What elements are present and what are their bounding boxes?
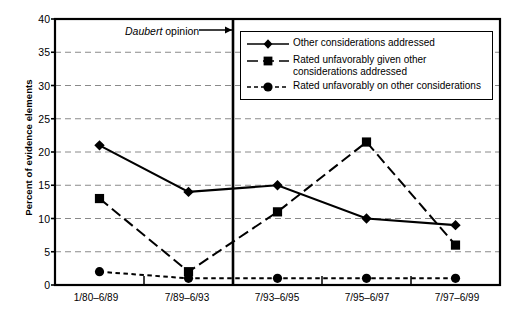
legend-key-circle-icon (245, 80, 291, 94)
daubert-arrow (199, 27, 232, 34)
data-point (362, 137, 371, 146)
legend-label-2-line1: Rated unfavorably given other (293, 54, 426, 66)
data-point (184, 274, 193, 283)
data-point (95, 194, 104, 203)
data-point (272, 180, 282, 190)
legend-item-rated-unfavorably-given: Rated unfavorably given other considerat… (245, 54, 488, 77)
data-point (273, 274, 282, 283)
data-point (362, 274, 371, 283)
data-series-group (94, 137, 460, 283)
legend-key-square-icon (245, 54, 291, 68)
legend-label-3: Rated unfavorably on other consideration… (291, 80, 481, 92)
legend-item-rated-unfavorably-other: Rated unfavorably on other consideration… (245, 80, 488, 94)
legend-label-1: Other considerations addressed (291, 37, 435, 49)
data-point (451, 241, 460, 250)
daubert-italic-text: Daubert (125, 25, 162, 37)
data-point (451, 274, 460, 283)
data-point (273, 207, 282, 216)
legend-item-other-considerations: Other considerations addressed (245, 37, 488, 51)
daubert-rest-text: opinion (162, 25, 199, 37)
legend: Other considerations addressed Rated unf… (240, 31, 493, 100)
legend-label-2-line2: considerations addressed (293, 66, 426, 78)
daubert-annotation: Daubert opinion (125, 25, 199, 37)
data-point (94, 140, 104, 150)
legend-key-diamond-icon (245, 37, 291, 51)
data-point (450, 220, 460, 230)
data-point (183, 187, 193, 197)
chart-figure: Percent of evidence elements 0 5 10 15 2… (0, 0, 516, 313)
data-point (95, 267, 104, 276)
data-point (361, 213, 371, 223)
